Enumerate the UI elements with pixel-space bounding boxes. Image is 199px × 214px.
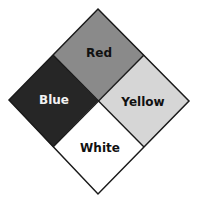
label-red: Red — [86, 46, 112, 60]
hazard-diamond: Red Blue Yellow White — [0, 0, 199, 214]
label-yellow: Yellow — [120, 95, 164, 109]
label-white: White — [80, 141, 120, 155]
label-blue: Blue — [39, 93, 69, 107]
